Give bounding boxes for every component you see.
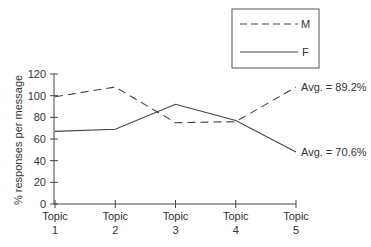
legend: M F xyxy=(232,9,319,68)
series-lines xyxy=(55,87,296,152)
series-f-line xyxy=(55,104,296,152)
avg-annotation-m: Avg. = 89.2% xyxy=(301,81,367,93)
x-tick-label: 1 xyxy=(52,224,58,236)
x-tick-label: Topic xyxy=(163,210,189,222)
x-ticks: Topic1Topic2Topic3Topic4Topic5 xyxy=(42,200,309,236)
line-chart: M F % responses per message 020406080100… xyxy=(0,0,371,247)
x-tick-label: Topic xyxy=(283,210,309,222)
y-tick-label: 40 xyxy=(34,155,46,167)
y-tick-label: 120 xyxy=(28,68,46,80)
legend-label-m: M xyxy=(301,18,310,30)
x-tick-label: 5 xyxy=(293,224,299,236)
x-tick-label: 3 xyxy=(172,224,178,236)
x-tick-label: 2 xyxy=(112,224,118,236)
y-axis-title: % responses per message xyxy=(12,75,24,205)
y-ticks: 020406080100120 xyxy=(28,68,58,210)
annotations: Avg. = 89.2%Avg. = 70.6% xyxy=(301,81,367,158)
x-tick-label: Topic xyxy=(223,210,249,222)
y-tick-label: 100 xyxy=(28,90,46,102)
avg-annotation-f: Avg. = 70.6% xyxy=(301,146,367,158)
y-tick-label: 80 xyxy=(34,111,46,123)
y-tick-label: 0 xyxy=(40,198,46,210)
y-tick-label: 60 xyxy=(34,133,46,145)
x-tick-label: 4 xyxy=(233,224,239,236)
x-tick-label: Topic xyxy=(42,210,68,222)
legend-label-f: F xyxy=(302,46,309,58)
y-tick-label: 20 xyxy=(34,176,46,188)
x-tick-label: Topic xyxy=(102,210,128,222)
